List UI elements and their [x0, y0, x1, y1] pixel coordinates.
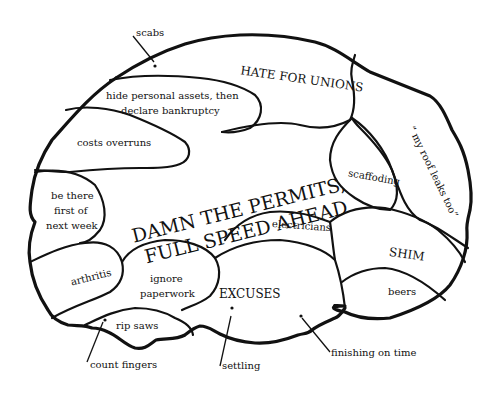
label-roof-leaks: “ my roof leaks too” [406, 124, 460, 220]
dot-settling [230, 306, 233, 309]
label-scabs: scabs [136, 27, 164, 38]
label-settling: settling [222, 360, 261, 371]
label-shim: SHIM [388, 245, 425, 264]
label-scaffoding: scaffoding [347, 167, 401, 187]
leader-settling [220, 316, 231, 366]
label-paperwork: paperwork [140, 288, 196, 299]
leader-scabs [133, 36, 154, 62]
dot-scabs [153, 64, 156, 67]
label-excuses: EXCUSES [219, 287, 281, 301]
label-be-there-2: first of [54, 205, 89, 216]
label-finishing-on-time: finishing on time [331, 347, 416, 358]
label-ignore: ignore [150, 273, 183, 284]
label-beers: beers [388, 286, 416, 297]
dot-count-fingers [103, 318, 106, 321]
region-electricians-right [330, 222, 345, 308]
label-hate-for-unions: HATE FOR UNIONS [240, 63, 365, 94]
label-hide-assets-1: hide personal assets, then [106, 90, 239, 101]
label-rip-saws: rip saws [116, 320, 158, 331]
dot-finishing [299, 314, 302, 317]
region-hide-assets [110, 76, 261, 133]
brain-diagram: scabs HATE FOR UNIONS hide personal asse… [0, 0, 503, 393]
label-be-there-1: be there [51, 190, 94, 201]
label-costs-overruns: costs overruns [77, 137, 151, 148]
label-be-there-3: next week [46, 220, 99, 231]
label-hide-assets-2: declare bankruptcy [121, 105, 220, 116]
label-count-fingers: count fingers [90, 359, 157, 370]
label-arthritis: arthritis [69, 267, 112, 288]
